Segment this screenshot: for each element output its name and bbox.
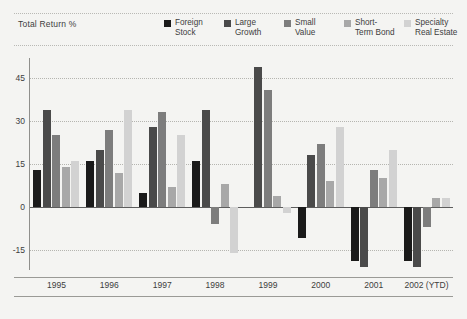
legend-label: Specialty Real Estate [415,18,457,37]
bar[interactable] [96,150,104,207]
x-axis-labels: 19951996199719981999200020012002 (YTD) [30,280,453,294]
bar[interactable] [52,135,60,207]
y-axis-tick-label: 45 [16,73,25,83]
bar[interactable] [336,127,344,207]
bar-group [136,58,189,270]
bar-group [400,58,453,270]
header-divider-top [14,13,453,15]
legend-item: Large Growth [224,18,284,37]
bar[interactable] [404,207,412,261]
legend-swatch-icon [284,20,291,27]
bar[interactable] [86,161,94,207]
legend-swatch-icon [224,20,231,27]
x-axis-tick-label: 1996 [83,280,136,294]
chart-legend: Foreign StockLarge GrowthSmall ValueShor… [164,18,457,37]
bar[interactable] [33,170,41,207]
bar[interactable] [389,150,397,207]
legend-label: Small Value [295,18,315,37]
bar[interactable] [149,127,157,207]
bar-group [294,58,347,270]
x-axis-line-top [14,277,453,278]
legend-label: Foreign Stock [175,18,203,37]
x-axis-tick-label: 1997 [136,280,189,294]
bar[interactable] [105,130,113,207]
bar[interactable] [230,207,238,253]
legend-swatch-icon [404,20,411,27]
bar-groups [30,58,453,270]
bar[interactable] [298,207,306,239]
bar[interactable] [139,193,147,207]
bar[interactable] [351,207,359,261]
bar[interactable] [413,207,421,267]
chart-axis-title: Total Return % [18,19,77,29]
bar[interactable] [62,167,70,207]
chart-container: Total Return % Foreign StockLarge Growth… [0,0,467,319]
y-axis-tick-label: 15 [16,159,25,169]
x-axis-tick-label: 1999 [242,280,295,294]
bar[interactable] [370,170,378,207]
bar[interactable] [202,110,210,207]
bar[interactable] [168,187,176,207]
legend-swatch-icon [344,20,351,27]
x-axis-tick-label: 2001 [347,280,400,294]
bar[interactable] [43,110,51,207]
bar[interactable] [273,196,281,207]
x-axis-tick-label: 2000 [294,280,347,294]
bar[interactable] [192,161,200,207]
bar[interactable] [379,178,387,207]
bar[interactable] [423,207,431,227]
y-axis-tick-label: 30 [16,116,25,126]
bar-group [30,58,83,270]
legend-item: Small Value [284,18,344,37]
bar-group [347,58,400,270]
bar-group [83,58,136,270]
bar[interactable] [326,181,334,207]
x-axis-tick-label: 1998 [189,280,242,294]
bar[interactable] [71,161,79,207]
legend-item: Short- Term Bond [344,18,404,37]
bar[interactable] [115,173,123,207]
bar[interactable] [283,207,291,213]
bar[interactable] [254,67,262,207]
legend-label: Short- Term Bond [355,18,395,37]
bar[interactable] [442,198,450,207]
bar[interactable] [432,198,440,207]
x-axis-line-bottom [14,296,453,297]
x-axis-tick-label: 1995 [30,280,83,294]
legend-item: Foreign Stock [164,18,224,37]
bar[interactable] [221,184,229,207]
bar[interactable] [307,155,315,207]
legend-swatch-icon [164,20,171,27]
bar[interactable] [360,207,368,267]
bar[interactable] [264,90,272,207]
bar[interactable] [211,207,219,224]
legend-label: Large Growth [235,18,261,37]
bar[interactable] [317,144,325,207]
bar[interactable] [124,110,132,207]
plot-area: 4530150-15 [30,58,453,270]
bar-group [242,58,295,270]
y-axis-tick-label: -15 [13,245,25,255]
legend-item: Specialty Real Estate [404,18,457,37]
header-divider-bottom [14,45,453,47]
x-axis-tick-label: 2002 (YTD) [400,280,453,294]
bar[interactable] [177,135,185,207]
y-axis-tick-label: 0 [20,202,25,212]
bar[interactable] [158,112,166,207]
bar-group [189,58,242,270]
